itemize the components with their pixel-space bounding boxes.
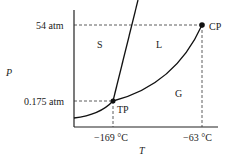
sublimation-curve: [74, 101, 113, 118]
critical-point-label: CP: [209, 22, 221, 32]
y-axis-label: P: [6, 68, 12, 78]
x-tick-minus63: −63 °C: [183, 133, 212, 143]
vaporization-curve: [113, 25, 202, 101]
triple-point-marker: [111, 99, 116, 104]
critical-point-marker: [199, 22, 205, 28]
region-gas-label: G: [175, 89, 182, 99]
triple-point-label: TP: [117, 105, 129, 115]
region-solid-label: S: [97, 40, 103, 50]
y-tick-54atm: 54 atm: [36, 21, 64, 31]
x-tick-minus169: −169 °C: [94, 133, 128, 143]
region-liquid-label: L: [156, 40, 162, 50]
x-axis-label: T: [139, 146, 145, 156]
y-tick-0175atm: 0.175 atm: [24, 97, 64, 107]
melting-curve: [113, 0, 138, 101]
